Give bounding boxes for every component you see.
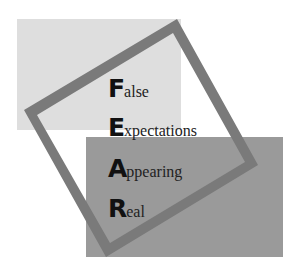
acronym-initial: F xyxy=(108,74,124,103)
acronym-word-appearing: Appearing xyxy=(108,156,182,181)
acronym-initial: E xyxy=(108,113,124,142)
acronym-initial: R xyxy=(108,194,126,223)
acronym-word-expectations: Expectations xyxy=(108,115,197,140)
acronym-word-rest: ppearing xyxy=(126,163,182,180)
acronym-word-false: False xyxy=(108,76,149,101)
acronym-initial: A xyxy=(108,154,126,183)
fear-diagram: False Expectations Appearing Real xyxy=(0,0,297,271)
acronym-word-rest: alse xyxy=(124,83,149,100)
acronym-word-rest: eal xyxy=(126,203,145,220)
acronym-word-rest: xpectations xyxy=(124,122,197,139)
acronym-word-real: Real xyxy=(108,196,145,221)
